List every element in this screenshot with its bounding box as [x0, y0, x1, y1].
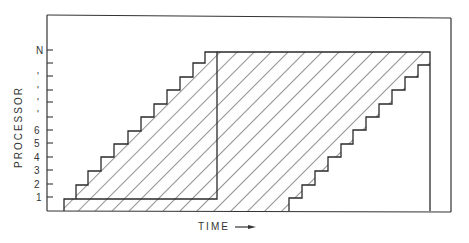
right-staircase-block: [217, 52, 430, 211]
y-axis-title: PROCESSOR: [13, 86, 24, 168]
tick-label-6: 6: [34, 125, 40, 136]
schedule-diagram: N ' ' ' ' 6 5 4 3 2 1 PROCESSOR TIME: [0, 0, 469, 243]
tick-label-4: 4: [34, 152, 40, 163]
right-arrow-icon: [235, 225, 256, 229]
y-axis-ticks: [47, 50, 53, 197]
tick-ellipsis-3: ': [37, 97, 39, 108]
tick-label-2: 2: [34, 179, 40, 190]
tick-ellipsis-2: ': [37, 85, 39, 96]
tick-ellipsis-4: ': [37, 109, 39, 120]
left-staircase-block: [64, 52, 217, 211]
tick-label-5: 5: [34, 138, 40, 149]
tick-label-1: 1: [36, 192, 42, 203]
tick-ellipsis-1: ': [37, 71, 39, 82]
tick-label-3: 3: [34, 165, 40, 176]
y-axis-labels: N ' ' ' ' 6 5 4 3 2 1: [34, 45, 43, 203]
tick-label-n: N: [36, 45, 43, 56]
x-axis-title: TIME: [198, 221, 230, 232]
